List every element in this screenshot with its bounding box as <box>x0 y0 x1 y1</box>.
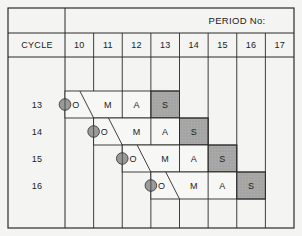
period-header: PERIOD No: <box>209 15 266 26</box>
step-A-cycle-16: A <box>219 181 225 191</box>
step-M-cycle-13: M <box>104 100 112 110</box>
cycle-header: CYCLE <box>21 40 53 50</box>
cycle-number-15: 15 <box>32 154 43 164</box>
step-M-cycle-15: M <box>161 154 169 164</box>
step-A-cycle-13: A <box>133 100 139 110</box>
period-number-11: 11 <box>103 40 113 50</box>
step-M-cycle-14: M <box>133 127 141 137</box>
step-S-cycle-15: S <box>219 154 225 164</box>
step-S-cycle-16: S <box>248 181 254 191</box>
step-O-cycle-15: O <box>129 154 136 164</box>
period-number-17: 17 <box>274 40 285 50</box>
period-number-10: 10 <box>74 40 85 50</box>
period-number-15: 15 <box>217 40 228 50</box>
period-number-13: 13 <box>160 40 171 50</box>
cycle-number-14: 14 <box>32 127 43 137</box>
period-number-12: 12 <box>131 40 142 50</box>
cycle-number-16: 16 <box>32 181 43 191</box>
period-number-16: 16 <box>246 40 257 50</box>
step-A-cycle-15: A <box>191 154 197 164</box>
step-O-cycle-14: O <box>101 127 108 137</box>
step-S-cycle-14: S <box>191 127 197 137</box>
step-A-cycle-14: A <box>162 127 168 137</box>
step-O-cycle-16: O <box>158 181 165 191</box>
step-M-cycle-16: M <box>190 181 198 191</box>
cycle-period-diagram <box>0 0 302 236</box>
step-O-cycle-13: O <box>72 100 79 110</box>
step-S-cycle-13: S <box>162 100 168 110</box>
cycle-number-13: 13 <box>32 100 43 110</box>
period-number-14: 14 <box>189 40 200 50</box>
